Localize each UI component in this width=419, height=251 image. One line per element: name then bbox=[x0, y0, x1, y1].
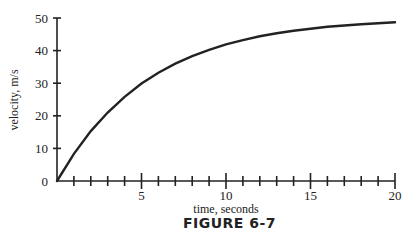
x-tick-label: 20 bbox=[389, 188, 402, 203]
velocity-curve bbox=[57, 22, 395, 181]
x-tick-label: 15 bbox=[304, 188, 317, 203]
chart: 010203040505101520 time, seconds velocit… bbox=[0, 0, 419, 251]
y-tick-label: 50 bbox=[35, 11, 48, 26]
x-tick-label: 10 bbox=[220, 188, 233, 203]
y-tick-label: 30 bbox=[35, 76, 48, 91]
y-axis-title: velocity, m/s bbox=[7, 69, 21, 131]
y-tick-label: 0 bbox=[42, 174, 49, 189]
y-tick-label: 20 bbox=[35, 108, 48, 123]
figure-caption: FIGURE 6-7 bbox=[0, 215, 419, 231]
y-tick-label: 10 bbox=[35, 141, 48, 156]
axes bbox=[53, 18, 395, 189]
y-tick-label: 40 bbox=[35, 43, 48, 58]
x-axis-title: time, seconds bbox=[193, 202, 259, 216]
tick-labels: 010203040505101520 bbox=[35, 11, 402, 204]
x-tick-label: 5 bbox=[138, 188, 145, 203]
